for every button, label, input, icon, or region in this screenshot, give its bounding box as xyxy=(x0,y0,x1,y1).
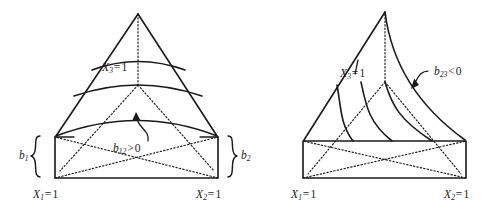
left-ridge-label-sub: 3 xyxy=(109,66,113,75)
left-base-right-label: X2=1 xyxy=(196,189,221,201)
right-base-right-value: 1 xyxy=(463,188,469,200)
right-ridge-label: X3=1 xyxy=(340,68,365,80)
right-ridge-label-value: 1 xyxy=(359,67,365,79)
left-ridge-label-value: 1 xyxy=(121,61,127,73)
left-base-left-value: 1 xyxy=(52,188,58,200)
left-contour-arc-2 xyxy=(74,85,202,96)
left-brace-b2-label: b2 xyxy=(241,150,251,162)
right-base-left-value: 1 xyxy=(310,188,316,200)
right-annotation-label: b23<0 xyxy=(434,66,462,78)
left-base-left-label: X1=1 xyxy=(33,189,58,201)
left-ridge-dotted-to-right-corner xyxy=(138,85,214,171)
right-annotation-sub: 23 xyxy=(440,70,447,79)
left-contour-arc-3 xyxy=(56,121,217,137)
left-brace-b1 xyxy=(31,136,40,177)
left-annotation-label: b12>0 xyxy=(113,143,141,155)
right-base-right-label: X2=1 xyxy=(444,189,469,201)
left-base-right-sub: 2 xyxy=(203,193,207,202)
left-ridge-label: X3=1 xyxy=(102,62,127,74)
left-annotation-value: 0 xyxy=(135,142,141,154)
right-annotation-var: b xyxy=(434,65,440,77)
right-annotation-arrowhead xyxy=(411,79,419,89)
figure-root: X3=1 X1=1 X2=1 b12>0 b1 b2 X3=1 X1=1 X2=… xyxy=(0,0,495,214)
right-panel-group xyxy=(303,12,466,178)
left-brace-b1-label: b1 xyxy=(19,150,29,162)
left-base-right-value: 1 xyxy=(215,188,221,200)
left-annotation-var: b xyxy=(113,142,119,154)
left-edge-generator-left xyxy=(56,14,138,136)
right-annotation-leader xyxy=(416,71,428,81)
left-brace-b2-sub: 2 xyxy=(247,154,251,163)
left-brace-b1-var: b xyxy=(19,149,25,161)
right-base-left-sub: 1 xyxy=(298,193,302,202)
right-base-right-sub: 2 xyxy=(451,193,455,202)
right-ridge-label-sub: 3 xyxy=(347,72,351,81)
left-annotation-op: > xyxy=(126,142,135,154)
left-brace-b2-var: b xyxy=(241,149,247,161)
left-annotation-leader xyxy=(137,119,148,141)
right-contour-curve-1 xyxy=(337,85,353,141)
left-base-left-sub: 1 xyxy=(40,193,44,202)
right-base-left-label: X1=1 xyxy=(291,189,316,201)
left-edge-generator-right xyxy=(138,14,217,136)
right-annotation-op: < xyxy=(447,65,456,77)
left-brace-b1-sub: 1 xyxy=(25,154,29,163)
figure-canvas xyxy=(0,0,495,214)
left-annotation-arrowhead xyxy=(132,112,140,121)
left-brace-b2 xyxy=(228,136,237,177)
right-ridge-dotted-to-left-corner xyxy=(308,82,385,174)
left-ridge-dotted-to-left-corner xyxy=(60,85,138,171)
right-annotation-value: 0 xyxy=(456,65,462,77)
left-annotation-sub: 12 xyxy=(119,147,126,156)
